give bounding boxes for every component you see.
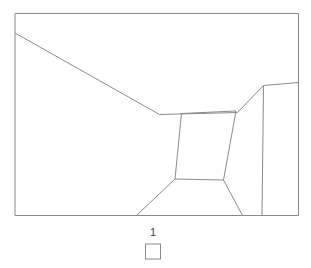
- picture-frame: [15, 14, 299, 216]
- caption-label-1: 1: [138, 227, 168, 238]
- floor-right-diagonal: [224, 180, 243, 216]
- figure-root: 1: [0, 0, 311, 268]
- center-recess-quadrilateral: [175, 111, 236, 180]
- ceiling-left-diagonal: [15, 33, 160, 115]
- right-alcove-vertical-edge: [262, 86, 264, 216]
- right-alcove-rising-diagonal: [238, 86, 264, 113]
- swatch-square: [146, 244, 161, 259]
- right-alcove-top-edge: [264, 83, 299, 86]
- floor-left-diagonal: [137, 179, 176, 216]
